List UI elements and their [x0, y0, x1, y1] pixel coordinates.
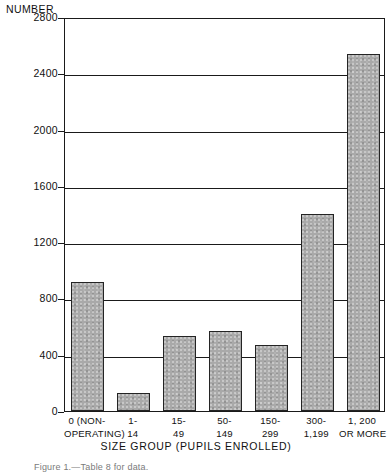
x-label-6: 1, 200OR MORE [339, 415, 385, 440]
x-label-line1: 0 (NON- [68, 415, 105, 426]
x-label-2: 15-49 [156, 415, 202, 440]
x-label-line2: 14 [110, 428, 156, 441]
x-label-line2: 49 [156, 428, 202, 441]
bar-5 [301, 214, 334, 411]
y-tick-label-2000: 2000 [0, 124, 58, 136]
x-label-0: 0 (NON-OPERATING) [64, 415, 110, 440]
x-label-5: 300-1,199 [293, 415, 339, 440]
x-label-3: 50-149 [202, 415, 248, 440]
x-label-line2: 1,199 [293, 428, 339, 441]
x-label-line1: 1- [128, 415, 137, 426]
x-label-line1: 150- [260, 415, 280, 426]
x-label-line1: 15- [171, 415, 185, 426]
y-tick-label-1600: 1600 [0, 180, 58, 192]
x-label-line2: 149 [202, 428, 248, 441]
y-tick-label-2400: 2400 [0, 67, 58, 79]
bar-4 [255, 345, 288, 411]
x-label-line2: OR MORE [339, 428, 385, 441]
y-tick-label-2800: 2800 [0, 11, 58, 23]
x-label-line1: 300- [306, 415, 326, 426]
x-axis-title: SIZE GROUP (PUPILS ENROLLED) [0, 440, 392, 452]
x-label-4: 150-299 [247, 415, 293, 440]
bar-0 [71, 282, 104, 412]
x-label-line1: 50- [217, 415, 231, 426]
y-tick-label-800: 800 [0, 292, 58, 304]
x-label-1: 1-14 [110, 415, 156, 440]
bars-layer [65, 19, 384, 411]
bar-1 [117, 393, 150, 411]
y-tick-label-400: 400 [0, 349, 58, 361]
bar-6 [347, 54, 380, 411]
plot-area [64, 18, 385, 412]
x-label-line2: OPERATING) [64, 428, 110, 441]
bar-3 [209, 331, 242, 411]
x-label-line1: 1, 200 [348, 415, 376, 426]
bar-2 [163, 336, 196, 411]
y-tick-label-0: 0 [0, 405, 58, 417]
y-tick-label-1200: 1200 [0, 236, 58, 248]
y-tick-mark-0 [58, 412, 64, 413]
figure-caption: Figure 1.—Table 8 for data. [34, 462, 148, 472]
x-label-line2: 299 [247, 428, 293, 441]
